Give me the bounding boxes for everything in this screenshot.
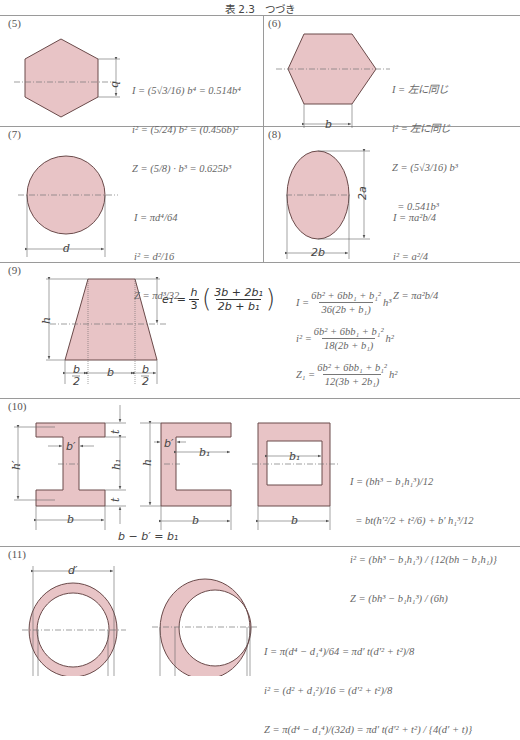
svg-text:t: t [109, 429, 122, 434]
dim-b: b [107, 366, 114, 379]
dim-b: b [325, 118, 332, 131]
eccentric-pipe-shape [160, 579, 251, 676]
svg-text:t: t [109, 497, 122, 502]
dim-b: b [109, 81, 122, 88]
dim-h: h [40, 317, 53, 324]
dim-b: b [192, 514, 199, 527]
formulas-5: I = (5√3/16) b⁴ = 0.514b⁴ i² = (5/24) b²… [132, 58, 241, 188]
dim-b1: b₁ [199, 446, 210, 459]
dim-2b: 2b [311, 246, 325, 259]
formulas-8: I = πa²b/4 i² = a²/4 Z = πa²b/4 [393, 185, 438, 315]
formulas-9: I = 6b² + 6bb₁ + b₁² 36(2b + b₁) h³ i² =… [296, 284, 397, 392]
dim-b-prime: b′ [164, 437, 174, 450]
dim-b: b [67, 513, 74, 526]
formulas-10: I = (bh³ − b₁h₁³)/12 = bt(h′²/2 + t²/6) … [350, 449, 497, 618]
dim-h: h [141, 459, 154, 466]
pipe-shape [29, 583, 117, 676]
ellipse-shape [287, 151, 349, 239]
box-shape [258, 423, 330, 506]
dim-b-prime: b′ [66, 440, 76, 453]
dim-h1: h₁ [110, 459, 123, 471]
e1-formula: e₁ = h 3 ( 3b + 2b₁ 2b + b₁ ) [162, 285, 275, 313]
svg-text:2: 2 [142, 375, 149, 388]
dim-b: b [291, 514, 298, 527]
channel-shape [161, 423, 231, 506]
relation-text: b − b′ = b₁ [118, 530, 178, 543]
i-beam-shape [36, 423, 105, 506]
dim-d-prime: d′ [68, 564, 78, 577]
hexagon-shape [25, 39, 98, 117]
svg-text:2: 2 [73, 375, 80, 388]
dim-b1: b₁ [289, 450, 300, 463]
dim-2a: 2a [356, 186, 369, 200]
dim-d: d [63, 242, 70, 255]
dim-h-prime: h′ [10, 460, 23, 470]
formulas-11: I = π(d⁴ − d₁⁴)/64 = πd′ t(d′² + t²)/8 i… [264, 619, 472, 740]
